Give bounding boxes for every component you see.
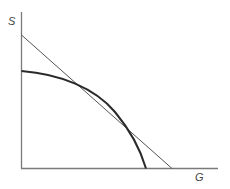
frontier-curve [22, 71, 147, 169]
x-axis-label: G [195, 171, 204, 183]
diagram: S G [0, 0, 230, 189]
tangent-line [22, 35, 173, 169]
y-axis-label: S [8, 15, 16, 27]
